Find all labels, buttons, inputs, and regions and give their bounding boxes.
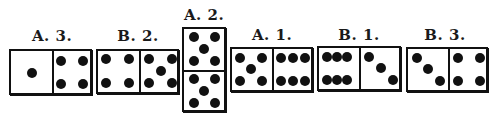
pip xyxy=(453,53,463,63)
domino-divider xyxy=(139,51,141,92)
pip xyxy=(388,75,398,85)
domino-a1 xyxy=(230,47,313,92)
pip xyxy=(167,78,177,88)
pip xyxy=(257,76,267,86)
pip xyxy=(189,74,199,84)
pip xyxy=(124,54,134,64)
pip xyxy=(189,98,199,108)
pip xyxy=(199,44,209,54)
pip xyxy=(332,75,342,85)
pip xyxy=(332,52,342,62)
pip xyxy=(144,78,154,88)
domino-b2 xyxy=(96,49,179,94)
pip xyxy=(412,53,422,63)
domino-divider xyxy=(272,49,274,90)
label-b1: B. 1. xyxy=(319,26,399,44)
pip xyxy=(246,64,256,74)
pip xyxy=(56,79,66,89)
pip xyxy=(475,53,485,63)
pip xyxy=(101,78,111,88)
pip xyxy=(364,52,374,62)
domino-b1 xyxy=(317,46,401,91)
pip xyxy=(257,53,267,63)
pip xyxy=(167,54,177,64)
domino-divider xyxy=(184,70,224,72)
pip xyxy=(322,75,332,85)
pip xyxy=(342,52,352,62)
pip xyxy=(235,53,245,63)
pip xyxy=(189,56,199,66)
pip xyxy=(78,79,88,89)
pip xyxy=(288,53,298,63)
pip xyxy=(376,63,386,73)
pip xyxy=(276,53,286,63)
pip xyxy=(342,75,352,85)
pip xyxy=(322,52,332,62)
pip xyxy=(210,56,220,66)
pip xyxy=(189,32,199,42)
domino-divider xyxy=(359,48,361,89)
label-a3: A. 3. xyxy=(12,27,92,45)
domino-a3 xyxy=(9,49,92,95)
pip xyxy=(235,76,245,86)
domino-divider xyxy=(448,49,450,90)
label-b2: B. 2. xyxy=(98,27,178,45)
pip xyxy=(78,56,88,66)
pip xyxy=(56,56,66,66)
pip xyxy=(276,76,286,86)
pip xyxy=(124,78,134,88)
label-b3: B. 3. xyxy=(405,26,485,44)
pip xyxy=(210,32,220,42)
pip xyxy=(210,74,220,84)
label-a1: A. 1. xyxy=(232,26,312,44)
pip xyxy=(453,76,463,86)
pip xyxy=(300,53,310,63)
domino-b3 xyxy=(406,47,488,92)
pip xyxy=(475,76,485,86)
pip xyxy=(27,68,37,78)
pip xyxy=(210,98,220,108)
pip xyxy=(288,76,298,86)
domino-divider xyxy=(52,51,54,93)
pip xyxy=(156,66,166,76)
pip xyxy=(423,64,433,74)
pip xyxy=(144,54,154,64)
pip xyxy=(199,86,209,96)
domino-a2 xyxy=(182,27,226,112)
pip xyxy=(300,76,310,86)
label-a2: A. 2. xyxy=(164,6,244,24)
pip xyxy=(101,54,111,64)
pip xyxy=(435,76,445,86)
